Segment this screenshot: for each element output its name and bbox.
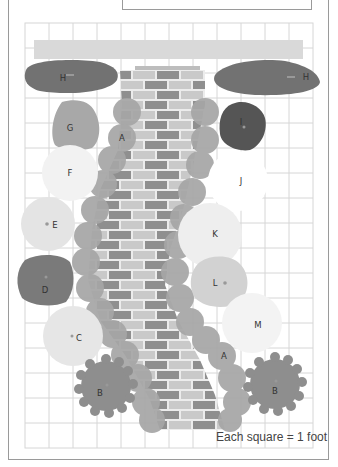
label-I: I	[240, 117, 243, 127]
wall-bar	[34, 40, 303, 59]
garden-plan: H H G A I F J E K D L M C A B B	[0, 0, 338, 467]
label-H-left: H	[60, 73, 66, 83]
label-H-right: H	[303, 72, 309, 82]
step	[135, 66, 200, 70]
plant-J	[208, 151, 268, 211]
label-D: D	[42, 285, 49, 295]
label-A-top: A	[119, 133, 125, 143]
plant-K	[178, 203, 242, 267]
scale-caption: Each square = 1 foot	[216, 430, 327, 444]
plant-B-right	[243, 352, 307, 416]
plant-G	[52, 100, 99, 150]
label-E: E	[52, 220, 57, 230]
label-C: C	[76, 333, 82, 343]
label-K: K	[212, 229, 218, 239]
label-B-right: B	[272, 386, 278, 396]
plant-I	[220, 102, 266, 150]
label-L: L	[213, 278, 218, 288]
plant-H-left	[25, 60, 118, 93]
label-F: F	[68, 168, 73, 178]
plant-D	[17, 255, 73, 306]
label-J: J	[239, 176, 243, 186]
label-G: G	[67, 123, 74, 133]
label-A-bottom: A	[221, 351, 227, 361]
plant-M	[222, 293, 282, 353]
label-M: M	[254, 320, 261, 330]
label-B-left: B	[97, 388, 103, 398]
